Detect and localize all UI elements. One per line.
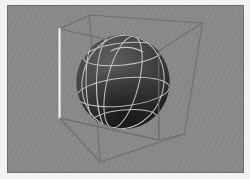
- cube-edge-connect-bottom-right: [159, 134, 185, 140]
- scene-render[interactable]: [8, 6, 243, 172]
- scene-canvas[interactable]: A dark grey shaded sphere with light wir…: [7, 5, 244, 173]
- cube-edge-back-right: [184, 23, 202, 134]
- render-viewport[interactable]: A dark grey shaded sphere with light wir…: [0, 0, 250, 179]
- cube-edge-back-top: [89, 15, 202, 23]
- cube-edge-connect-top-left: [60, 15, 90, 29]
- cube-edge-connect-top-right: [159, 23, 203, 51]
- cube-edge-back-bottom: [100, 134, 184, 162]
- cube-edge-connect-bottom-left: [60, 118, 101, 162]
